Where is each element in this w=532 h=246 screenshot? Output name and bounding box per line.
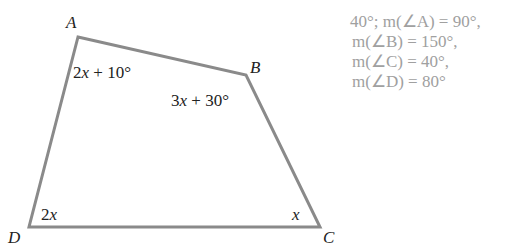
angle-label-b: 3x + 30° xyxy=(171,91,229,110)
answer-line-4: m(∠D) = 80° xyxy=(350,72,481,92)
angle-label-a: 2x + 10° xyxy=(73,63,131,82)
answer-line-2: m(∠B) = 150°, xyxy=(350,32,481,52)
angle-label-d: 2x xyxy=(41,205,58,224)
answer-line-1: 40°; m(∠A) = 90°, xyxy=(350,12,481,32)
vertex-label-d: D xyxy=(7,228,21,246)
answer-text: 40°; m(∠A) = 90°, m(∠B) = 150°, m(∠C) = … xyxy=(350,12,481,92)
vertex-label-b: B xyxy=(250,58,261,77)
vertex-label-a: A xyxy=(65,13,77,32)
answer-line-3: m(∠C) = 40°, xyxy=(350,52,481,72)
angle-label-c: x xyxy=(291,205,300,224)
vertex-label-c: C xyxy=(323,228,335,246)
